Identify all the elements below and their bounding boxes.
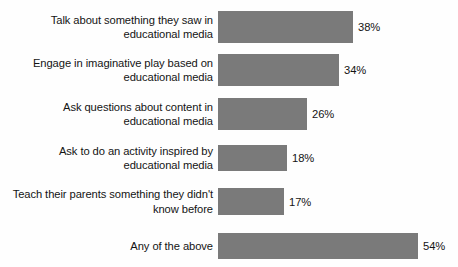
bar-value-label: 34% xyxy=(339,64,366,76)
bar-track: 54% xyxy=(218,233,458,259)
bar-track: 34% xyxy=(218,54,458,86)
bar-value-label: 54% xyxy=(418,240,445,252)
bar-category-label: Teach their parents something they didn'… xyxy=(0,187,218,216)
bar-category-label: Engage in imaginative play based on educ… xyxy=(0,56,218,85)
bar-row: Any of the above 54% xyxy=(0,233,458,259)
bar-track: 18% xyxy=(218,145,458,171)
bar-value-label: 17% xyxy=(284,196,311,208)
bar-category-label: Ask to do an activity inspired by educat… xyxy=(0,144,218,173)
bar-row: Ask questions about content in education… xyxy=(0,98,458,130)
bar-track: 26% xyxy=(218,98,458,130)
bar-shape xyxy=(218,233,418,259)
bar-shape xyxy=(218,188,284,215)
bar-value-label: 18% xyxy=(287,152,314,164)
bar-row: Ask to do an activity inspired by educat… xyxy=(0,145,458,171)
bar-row: Teach their parents something they didn'… xyxy=(0,188,458,215)
bar-category-label: Any of the above xyxy=(0,239,218,254)
horizontal-bar-chart: Talk about something they saw in educati… xyxy=(0,0,458,267)
bar-row: Engage in imaginative play based on educ… xyxy=(0,54,458,86)
bar-shape xyxy=(218,98,307,130)
bar-shape xyxy=(218,11,353,43)
bar-shape xyxy=(218,54,339,86)
bar-track: 17% xyxy=(218,188,458,215)
bar-shape xyxy=(218,145,287,171)
bar-track: 38% xyxy=(218,11,458,43)
bar-category-label: Talk about something they saw in educati… xyxy=(0,13,218,42)
bar-value-label: 38% xyxy=(353,21,380,33)
bar-value-label: 26% xyxy=(307,108,334,120)
bar-category-label: Ask questions about content in education… xyxy=(0,100,218,129)
bar-row: Talk about something they saw in educati… xyxy=(0,11,458,43)
